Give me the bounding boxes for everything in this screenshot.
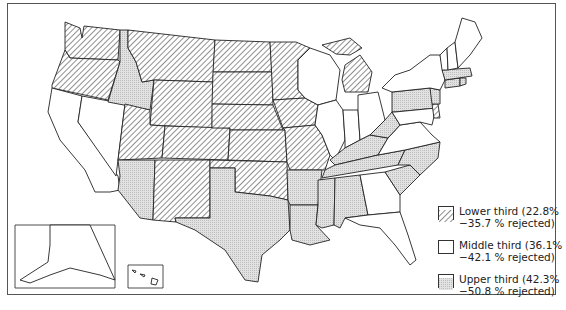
legend-label: Upper third (42.3% [459,273,559,285]
hatch-swatch-icon [438,206,454,220]
state-mt [128,30,215,82]
state-wa [65,22,120,60]
legend-label: Middle third (36.1% [459,239,562,251]
state-fl [345,212,416,265]
legend-label: Lower third (22.8% [459,205,559,217]
state-wy [150,80,213,128]
legend-item-upper: Upper third (42.3%−50.8 % rejected) [438,273,563,297]
state-sd [212,72,273,105]
state-co [162,126,230,160]
blank-swatch-icon [438,240,454,254]
hawaii-inset-frame [128,265,163,288]
state-ri [460,78,466,86]
legend-item-lower: Lower third (22.8%−35.7 % rejected) [438,205,563,229]
state-ny [382,55,445,92]
legend-item-middle: Middle third (36.1%−42.1 % rejected) [438,239,563,263]
state-nj [430,88,440,104]
legend-label: −50.8 % rejected) [459,285,559,297]
state-ne [212,104,283,130]
state-ar [287,170,322,205]
legend-label: −42.1 % rejected) [459,251,562,263]
state-nm [153,160,210,222]
dots-swatch-icon [438,274,454,288]
legend-label: −35.7 % rejected) [459,217,559,229]
state-nd [213,40,272,72]
state-az [118,160,155,220]
state-ms [316,178,335,228]
state-wi [298,48,340,105]
state-me [455,18,482,68]
state-ks [228,130,287,162]
legend: Lower third (22.8%−35.7 % rejected) Midd… [438,205,563,307]
